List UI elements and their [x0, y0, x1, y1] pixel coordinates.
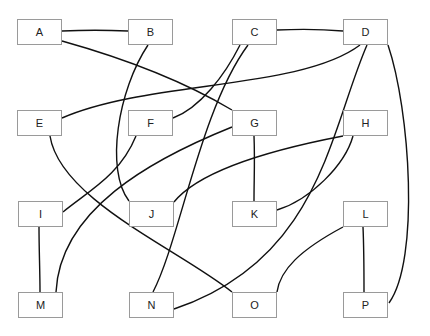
- node-i: I: [18, 201, 63, 227]
- node-a: A: [17, 19, 62, 45]
- edge-f-i: [63, 136, 136, 212]
- edge-i-m: [39, 227, 40, 292]
- edge-c-f: [173, 45, 240, 118]
- edge-a-g: [62, 41, 232, 110]
- node-b: B: [128, 19, 173, 45]
- edge-a-b: [62, 30, 128, 31]
- node-h: H: [343, 110, 388, 136]
- node-f: F: [128, 110, 173, 136]
- node-g: G: [232, 110, 277, 136]
- node-e: E: [17, 110, 62, 136]
- edge-c-d: [277, 29, 343, 31]
- edge-l-o: [277, 227, 343, 292]
- edge-d-p: [388, 45, 409, 303]
- edge-h-k: [277, 136, 353, 210]
- node-j: J: [129, 201, 174, 227]
- node-d: D: [343, 19, 388, 45]
- node-m: M: [18, 292, 63, 318]
- node-n: N: [129, 292, 174, 318]
- edge-h-j: [174, 136, 343, 202]
- edge-l-p: [363, 227, 364, 292]
- node-p: P: [343, 292, 388, 318]
- node-l: L: [343, 201, 388, 227]
- edge-layer: [0, 0, 430, 336]
- edge-d-e: [62, 45, 360, 118]
- edge-d-n: [174, 45, 367, 309]
- node-c: C: [232, 19, 277, 45]
- node-o: O: [232, 292, 277, 318]
- node-k: K: [232, 201, 277, 227]
